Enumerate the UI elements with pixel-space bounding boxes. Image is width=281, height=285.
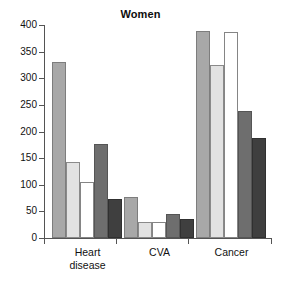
bar-group <box>196 25 267 238</box>
bar <box>124 197 138 238</box>
bar <box>166 214 180 238</box>
plot-area <box>44 25 272 238</box>
y-axis-tick-label: 250 <box>3 100 37 110</box>
y-axis-tick-label: 0 <box>3 233 37 243</box>
bar <box>108 199 122 238</box>
bar <box>238 111 252 238</box>
y-axis-tick-label: 200 <box>3 127 37 137</box>
bar <box>80 182 94 238</box>
y-axis-tick <box>39 105 44 106</box>
bar <box>52 62 66 238</box>
y-axis-tick <box>39 185 44 186</box>
y-axis-tick-labels: 050100150200250300350400 <box>0 0 37 285</box>
bar <box>224 32 238 238</box>
x-axis-tick <box>188 239 189 244</box>
bar <box>152 222 166 239</box>
bar <box>196 31 210 238</box>
x-axis-group-label: Cancer <box>184 246 279 259</box>
chart-title: Women <box>0 8 281 20</box>
y-axis-tick <box>39 52 44 53</box>
y-axis-tick-label: 400 <box>3 20 37 30</box>
x-axis-tick <box>271 239 272 244</box>
y-axis-tick-label: 150 <box>3 153 37 163</box>
y-axis-tick <box>39 158 44 159</box>
x-axis-tick <box>116 239 117 244</box>
bar <box>66 162 80 238</box>
y-axis-tick-label: 50 <box>3 206 37 216</box>
y-axis-tick <box>39 132 44 133</box>
y-axis-tick-label: 350 <box>3 47 37 57</box>
y-axis-tick-label: 300 <box>3 73 37 83</box>
bar <box>252 138 266 238</box>
x-axis-tick <box>44 239 45 244</box>
bar <box>210 65 224 238</box>
y-axis-tick-label: 100 <box>3 180 37 190</box>
x-axis-line <box>44 238 272 239</box>
bar-group <box>52 25 123 238</box>
bar <box>138 222 152 239</box>
y-axis-tick <box>39 211 44 212</box>
y-axis-tick <box>39 78 44 79</box>
bar-group <box>124 25 195 238</box>
y-axis-tick <box>39 25 44 26</box>
bar <box>180 219 194 238</box>
bar <box>94 144 108 238</box>
bar-chart: Women 050100150200250300350400 Heart dis… <box>0 0 281 285</box>
